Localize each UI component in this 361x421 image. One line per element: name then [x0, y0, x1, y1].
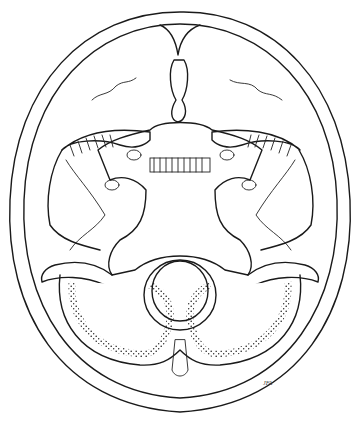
cranial-wall — [10, 12, 351, 412]
skull-base-illustration: JFA — [0, 0, 361, 421]
middle-cranial-fossae — [48, 150, 313, 250]
skull-base-drawing — [0, 0, 361, 421]
lesser-wings — [62, 130, 300, 156]
artist-signature: JFA — [263, 380, 272, 386]
petrous-ridges — [42, 262, 319, 285]
posterior-cranial-fossa — [59, 275, 300, 376]
cribriform-plate — [160, 25, 200, 122]
